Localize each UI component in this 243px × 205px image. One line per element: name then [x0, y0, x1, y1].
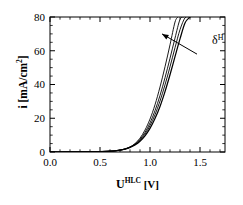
y-tick-label: 80	[34, 11, 46, 23]
x-tick-label: 1.0	[143, 156, 157, 168]
annotation-group: δH	[162, 33, 224, 54]
axis-ticks	[50, 17, 225, 152]
y-tick-label: 40	[34, 78, 46, 90]
data-curve-4	[50, 17, 190, 152]
axes-frame	[50, 17, 225, 152]
data-curve-1	[50, 17, 178, 152]
figure-container: δH 0.00.51.01.5020406080 i [mA/cm2] UHLC…	[0, 0, 243, 205]
x-tick-label: 0.5	[93, 156, 107, 168]
y-tick-label: 0	[40, 146, 46, 158]
x-axis-title-text: UHLC [V]	[50, 176, 225, 192]
y-axis-title-text: i [mA/cm2]	[15, 21, 29, 141]
y-axis-title-superscript: 2	[15, 59, 24, 63]
y-axis-title-base: i [mA/cm	[17, 62, 29, 108]
data-curve-2	[50, 17, 184, 152]
iv-curve-chart: δH 0.00.51.01.5020406080	[0, 0, 243, 205]
trend-arrow-head	[162, 34, 169, 40]
delta-h-superscript: H	[218, 33, 224, 42]
y-tick-label: 20	[34, 112, 46, 124]
plot-frame	[50, 17, 225, 152]
x-tick-label: 0.0	[43, 156, 57, 168]
x-axis-title-unit: [V]	[141, 178, 159, 190]
x-axis-title-superscript: HLC	[125, 176, 141, 185]
y-axis-title-tail: ]	[17, 55, 29, 59]
delta-h-annotation: δH	[212, 33, 224, 47]
y-tick-label: 60	[34, 45, 46, 57]
x-axis-title-base: U	[116, 177, 125, 191]
data-curves	[50, 17, 190, 152]
x-tick-label: 1.5	[193, 156, 207, 168]
